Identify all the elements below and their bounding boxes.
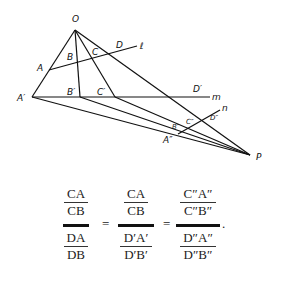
fraction-2-bottom: D′A′ D′B′ (118, 230, 154, 263)
fraction-3-bottom: D″A″ D″B″ (178, 230, 218, 263)
fraction-1-top: CA CB (62, 186, 90, 219)
f2-top-den: CB (120, 203, 152, 219)
fraction-2-top: CA CB (120, 186, 152, 219)
equals-sign-1: = (102, 216, 109, 232)
f1-top-num: CA (62, 186, 90, 202)
fraction-1-bottom: DA DB (62, 230, 90, 263)
equals-sign-2: = (163, 216, 170, 232)
f3-top-num: C″A″ (178, 186, 218, 202)
f1-bot-den: DB (62, 247, 90, 263)
cross-ratio-equation: CA CB DA DB = CA CB D′A′ D′B′ = C″A″ C″B… (0, 0, 283, 285)
f3-bot-den: D″B″ (178, 247, 218, 263)
f2-bot-num: D′A′ (118, 230, 154, 246)
fraction-3-top: C″A″ C″B″ (178, 186, 218, 219)
period: . (222, 216, 225, 232)
f2-main-bar (118, 224, 154, 227)
f3-bot-num: D″A″ (178, 230, 218, 246)
f1-bot-num: DA (62, 230, 90, 246)
f2-top-num: CA (120, 186, 152, 202)
f1-main-bar (63, 224, 89, 227)
f1-top-den: CB (62, 203, 90, 219)
f3-top-den: C″B″ (178, 203, 218, 219)
f2-bot-den: D′B′ (118, 247, 154, 263)
f3-main-bar (176, 224, 220, 227)
